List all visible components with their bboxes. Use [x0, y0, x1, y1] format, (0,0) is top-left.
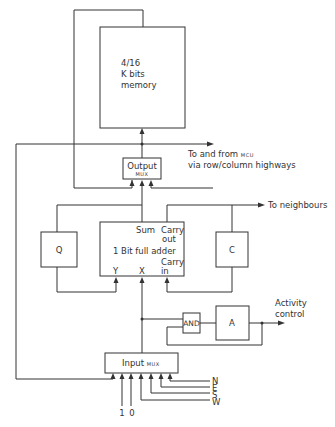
- x-input-line: [140, 277, 184, 353]
- a-label: A: [229, 318, 235, 328]
- const-one-label: 1: [119, 408, 124, 418]
- neighbours-label: To neighbours: [267, 200, 328, 210]
- arrow-right-icon: [207, 142, 214, 147]
- adder-sum-label: Sum: [136, 225, 155, 235]
- q-label: Q: [56, 245, 63, 255]
- activity-label-line1: Activity: [275, 298, 307, 308]
- adder-y-label: Y: [112, 266, 119, 276]
- memory-label-line2: K bits: [121, 69, 145, 79]
- activity-label-line2: control: [275, 309, 304, 319]
- output-mux-sub: MUX: [136, 171, 149, 177]
- memory-label-line3: memory: [121, 80, 157, 90]
- mcu-label-line1: To and from MCU: [187, 149, 254, 159]
- input-mux: Input MUX 1 0 N E S W: [16, 353, 221, 418]
- processor-element-diagram: 4/16 K bits memory To and from MCU via r…: [0, 0, 335, 427]
- activity-logic: AND A Activity control: [167, 298, 307, 345]
- arrow-up-icon: [140, 128, 145, 134]
- c-register: To neighbours C: [165, 200, 328, 292]
- and-gate-label: AND: [183, 319, 200, 328]
- c-label: C: [229, 245, 235, 255]
- arrow-right-icon: [258, 203, 265, 208]
- adder-x-label: X: [139, 266, 145, 276]
- memory-label-line1: 4/16: [121, 58, 140, 68]
- mcu-label-line2: via row/column highways: [188, 160, 296, 170]
- const-zero-label: 0: [129, 408, 134, 418]
- adder-carry-out-label2: out: [162, 234, 177, 244]
- arrow-right-icon: [278, 321, 285, 326]
- dir-w-label: W: [212, 397, 221, 407]
- adder-carry-in-label2: in: [161, 266, 169, 276]
- full-adder: Sum Carry out 1 Bit full adder Carry in …: [100, 222, 184, 276]
- adder-title: 1 Bit full adder: [113, 246, 176, 256]
- output-mux-label: Output: [127, 161, 157, 171]
